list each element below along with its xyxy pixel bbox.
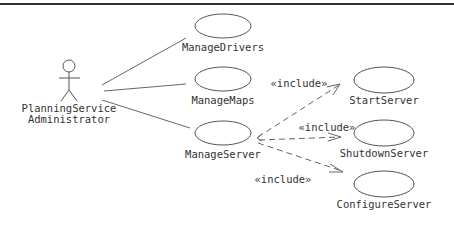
use-case-ellipse[interactable] xyxy=(195,14,251,38)
actor-right-leg xyxy=(69,90,77,101)
use-case-ellipse[interactable] xyxy=(354,171,414,197)
use-case-ellipse[interactable] xyxy=(354,120,414,146)
include-stereotype-label: «include» xyxy=(271,77,328,89)
use-case-label: StartServer xyxy=(349,94,419,106)
actor-name-line2: Administrator xyxy=(28,113,110,125)
use-case-diagram: PlanningService Administrator ManageDriv… xyxy=(0,0,454,226)
use-case-label: ManageServer xyxy=(185,148,261,160)
use-case-label: ManageMaps xyxy=(191,94,254,106)
dashed-dependency-line xyxy=(259,137,340,140)
open-arrowhead-icon xyxy=(329,164,343,172)
include-stereotype-label: «include» xyxy=(255,173,312,185)
use-case-label: ConfigureServer xyxy=(337,198,432,210)
use-case-configure-server[interactable]: ConfigureServer xyxy=(337,171,432,210)
use-case-ellipse[interactable] xyxy=(195,121,251,145)
association-manage-server xyxy=(102,100,190,128)
dashed-dependency-line xyxy=(258,143,342,171)
use-case-label: ManageDrivers xyxy=(182,41,264,53)
use-case-label: ShutdownServer xyxy=(340,147,429,159)
actor-planning-service-administrator: PlanningService Administrator xyxy=(22,60,117,125)
include-configure-server: «include» xyxy=(255,143,343,185)
use-case-manage-maps[interactable]: ManageMaps xyxy=(191,67,254,106)
actor-left-leg xyxy=(61,90,69,101)
association-manage-drivers xyxy=(102,38,186,85)
use-case-manage-drivers[interactable]: ManageDrivers xyxy=(182,14,264,53)
use-case-start-server[interactable]: StartServer xyxy=(349,67,419,106)
include-stereotype-label: «include» xyxy=(299,121,356,133)
actor-head-icon xyxy=(63,60,75,72)
use-case-manage-server[interactable]: ManageServer xyxy=(185,121,261,160)
association-manage-maps xyxy=(104,84,186,91)
use-case-ellipse[interactable] xyxy=(354,67,414,93)
include-shutdown-server: «include» xyxy=(259,121,355,141)
use-case-ellipse[interactable] xyxy=(195,67,251,91)
